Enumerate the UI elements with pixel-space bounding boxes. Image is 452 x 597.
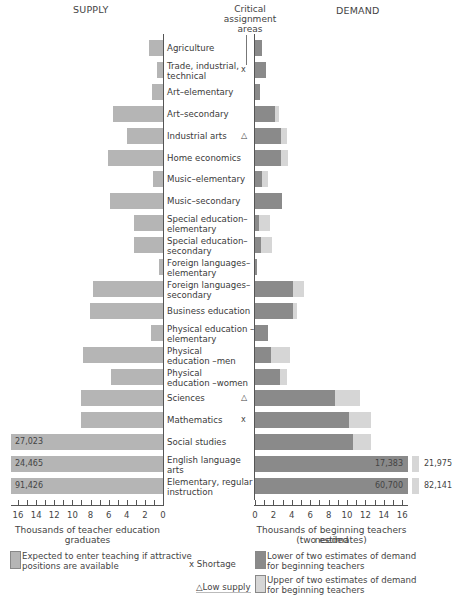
category-label: Physicaleducation –men bbox=[167, 346, 255, 366]
demand-lower-bar bbox=[255, 434, 353, 450]
supply-bar bbox=[90, 303, 163, 319]
low-supply-marker-icon: △ bbox=[241, 393, 247, 402]
category-label-line-1: Elementary, regular bbox=[167, 477, 255, 487]
category-label: Elementary, regularinstruction bbox=[167, 477, 255, 497]
category-label-line-1: Physical bbox=[167, 368, 255, 378]
demand-lower-bar bbox=[255, 303, 293, 319]
demand-tick bbox=[375, 500, 376, 505]
supply-bar bbox=[153, 171, 163, 187]
critical-areas-title: Critical assignment areas bbox=[222, 4, 278, 34]
demand-lower-bar bbox=[255, 259, 257, 275]
supply-value: 27,023 bbox=[15, 437, 43, 446]
center-left-axis bbox=[163, 34, 164, 500]
category-label-line-1: Special education– bbox=[167, 236, 255, 246]
category-label: Business education bbox=[167, 306, 255, 316]
demand-tick-label: 8 bbox=[319, 510, 339, 520]
supply-tick-label: 2 bbox=[135, 510, 155, 520]
supply-tick bbox=[91, 500, 92, 505]
legend-upper-line-2: for beginning teachers bbox=[267, 585, 416, 595]
supply-tick-label: 0 bbox=[153, 510, 173, 520]
supply-bar bbox=[81, 412, 163, 428]
demand-lower-bar bbox=[255, 171, 262, 187]
supply-bar bbox=[127, 128, 163, 144]
supply-tick-label: 12 bbox=[44, 510, 64, 520]
supply-tick-label: 10 bbox=[62, 510, 82, 520]
demand-tick bbox=[273, 500, 274, 505]
demand-lower-bar bbox=[255, 40, 262, 56]
category-label-line-2: education –women bbox=[167, 378, 255, 388]
demand-tick bbox=[338, 500, 339, 505]
demand-tick bbox=[393, 500, 394, 505]
demand-lower-bar bbox=[255, 412, 349, 428]
category-label-line-1: Home economics bbox=[167, 153, 255, 163]
supply-bar bbox=[159, 259, 163, 275]
supply-tick-label: 6 bbox=[99, 510, 119, 520]
demand-lower-bar bbox=[255, 325, 268, 341]
category-label: Home economics bbox=[167, 153, 255, 163]
supply-tick bbox=[81, 500, 82, 505]
demand-tick bbox=[329, 500, 330, 505]
demand-tick bbox=[264, 500, 265, 505]
category-label-line-2: instruction bbox=[167, 487, 255, 497]
category-label: Special education–elementary bbox=[167, 214, 255, 234]
supply-tick bbox=[145, 500, 146, 505]
legend-supply-line-2: positions are available bbox=[22, 561, 192, 571]
category-label-line-1: Music–elementary bbox=[167, 174, 255, 184]
supply-bar bbox=[83, 347, 163, 363]
supply-bar bbox=[110, 193, 163, 209]
supply-tick bbox=[109, 500, 110, 505]
category-label: Music–secondary bbox=[167, 196, 255, 206]
supply-value: 91,426 bbox=[15, 481, 43, 490]
category-label: Art–elementary bbox=[167, 87, 255, 97]
shortage-marker-icon: x bbox=[241, 415, 246, 424]
supply-bar bbox=[151, 325, 163, 341]
supply-bar bbox=[152, 84, 163, 100]
demand-lower-bar bbox=[255, 347, 271, 363]
category-label: Special education–secondary bbox=[167, 236, 255, 256]
supply-title: SUPPLY bbox=[73, 4, 108, 15]
demand-lower-bar bbox=[255, 84, 260, 100]
category-label-line-1: Physical bbox=[167, 346, 255, 356]
supply-tick bbox=[45, 500, 46, 505]
demand-tick-label: 4 bbox=[282, 510, 302, 520]
demand-upper-value: 21,975 bbox=[424, 459, 452, 468]
demand-lower-bar bbox=[255, 128, 281, 144]
category-label-line-1: Business education bbox=[167, 306, 255, 316]
category-label-line-1: Social studies bbox=[167, 437, 255, 447]
supply-bar bbox=[134, 237, 163, 253]
legend-swatch-lower bbox=[255, 551, 266, 569]
legend-supply-line-1: Expected to enter teaching if attractive bbox=[22, 551, 192, 561]
demand-upper-bar-stub bbox=[412, 478, 419, 494]
demand-lower-bar bbox=[255, 237, 261, 253]
category-label-line-2: elementary bbox=[167, 268, 255, 278]
demand-axis-title-line-2: (two estimates) bbox=[244, 535, 419, 545]
supply-value: 24,465 bbox=[15, 459, 43, 468]
demand-title: DEMAND bbox=[336, 5, 380, 16]
supply-tick-label: 4 bbox=[117, 510, 137, 520]
demand-upper-bar-stub bbox=[412, 456, 419, 472]
category-label-line-2: arts bbox=[167, 465, 255, 475]
demand-tick bbox=[319, 500, 320, 505]
supply-tick bbox=[154, 500, 155, 505]
supply-tick-label: 14 bbox=[26, 510, 46, 520]
demand-lower-bar bbox=[255, 369, 280, 385]
supply-tick bbox=[27, 500, 28, 505]
supply-bar bbox=[81, 390, 163, 406]
supply-tick bbox=[127, 500, 128, 505]
category-label-line-2: education –men bbox=[167, 356, 255, 366]
category-label: English languagearts bbox=[167, 455, 255, 475]
demand-tick bbox=[301, 500, 302, 505]
demand-lower-value: 60,700 bbox=[375, 481, 403, 490]
demand-tick-label: 10 bbox=[337, 510, 357, 520]
legend-supply: Expected to enter teaching if attractive… bbox=[22, 551, 192, 571]
legend-lower-line-2: for beginning teachers bbox=[267, 561, 416, 571]
category-label-line-2: elementary bbox=[167, 334, 255, 344]
category-label: Foreign languages–secondary bbox=[167, 280, 255, 300]
supply-tick-label: 8 bbox=[81, 510, 101, 520]
category-label-line-2: secondary bbox=[167, 246, 255, 256]
legend-lower-line-1: Lower of two estimates of demand bbox=[267, 551, 416, 561]
demand-tick-label: 2 bbox=[263, 510, 283, 520]
category-label-line-1: Physical education – bbox=[167, 324, 255, 334]
demand-lower-bar bbox=[255, 150, 281, 166]
supply-axis-line bbox=[11, 505, 164, 506]
